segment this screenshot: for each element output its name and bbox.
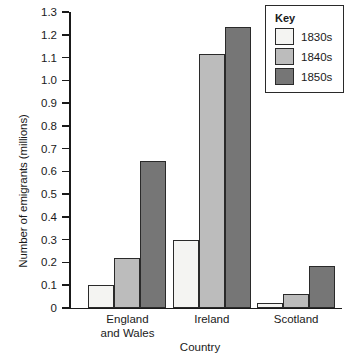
y-tick-mark [62,216,69,218]
y-tick-mark [62,148,69,150]
y-tick-mark [62,171,69,173]
y-tick-mark [62,11,69,13]
bar-ireland-1830s [173,240,199,308]
y-tick-label: 0.7 [0,141,57,157]
y-tick-label: 0.1 [0,277,57,293]
legend-swatch-1840s [275,48,294,65]
legend-label-1840s: 1840s [301,51,332,63]
y-tick-mark [62,102,69,104]
y-tick-mark [62,284,69,286]
y-tick-mark [62,193,69,195]
y-tick-label: 0.4 [0,209,57,225]
y-tick-mark [62,57,69,59]
y-tick-label: 1.1 [0,50,57,66]
y-tick-label: 1.2 [0,27,57,43]
legend-label-1830s: 1830s [301,31,332,43]
bar-ireland-1850s [225,27,251,308]
y-tick-label: 0.8 [0,118,57,134]
bar-england-and-wales-1840s [114,258,140,308]
x-category-label: Scotland [236,313,350,327]
y-tick-label: 0.2 [0,254,57,270]
y-tick-mark [62,34,69,36]
y-tick-label: 0.9 [0,95,57,111]
y-tick-label: 1.3 [0,4,57,20]
bar-ireland-1840s [199,54,225,308]
bar-scotland-1830s [257,303,283,308]
legend-entries: 1830s1840s1850s [275,28,343,85]
bar-chart: Number of emigrants (millions) 00.10.20.… [0,0,350,359]
y-tick-mark [62,262,69,264]
x-category-label-line: and Wales [67,327,187,341]
legend: Key 1830s1840s1850s [265,5,344,93]
y-tick-mark [62,125,69,127]
y-tick-mark [62,307,69,309]
y-tick-label: 1.0 [0,72,57,88]
y-tick-label: 0.3 [0,232,57,248]
bar-england-and-wales-1850s [140,161,166,308]
bar-scotland-1850s [309,266,335,308]
y-tick-mark [62,239,69,241]
x-axis-title: Country [60,341,340,353]
y-tick-label: 0.5 [0,186,57,202]
legend-title: Key [275,12,343,24]
legend-entry-1850s: 1850s [275,68,343,85]
legend-entry-1830s: 1830s [275,28,343,45]
legend-entry-1840s: 1840s [275,48,343,65]
y-tick-mark [62,80,69,82]
legend-swatch-1830s [275,28,294,45]
y-tick-label: 0.6 [0,163,57,179]
bar-scotland-1840s [283,294,309,308]
x-category-label-line: Scotland [236,313,350,327]
legend-label-1850s: 1850s [301,71,332,83]
legend-swatch-1850s [275,68,294,85]
bar-england-and-wales-1830s [88,285,114,308]
y-tick-label: 0 [0,300,57,316]
